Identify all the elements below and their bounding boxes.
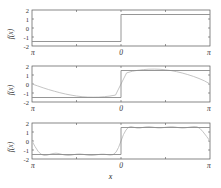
- y-tick-label: 1: [26, 16, 29, 23]
- y-tick-label: -2: [24, 43, 29, 50]
- y-tick-label: -2: [24, 156, 29, 163]
- chart-panel-1: f(x) 2 1 0 -1 -2: [0, 4, 221, 60]
- x-tick-label: π: [207, 48, 211, 57]
- fourier-series-figure: f(x) 2 1 0 -1 -2: [0, 0, 221, 188]
- x-tick-label: 0: [119, 48, 123, 57]
- square-wave-trace: [32, 128, 210, 155]
- square-wave-trace: [32, 15, 210, 42]
- x-tick-label: π: [31, 48, 35, 57]
- y-tick-label: -1: [24, 147, 29, 154]
- square-wave-trace: [32, 71, 210, 98]
- x-tick-label: π: [207, 104, 211, 113]
- panel-1-svg: f(x) 2 1 0 -1 -2: [0, 4, 221, 60]
- chart-panel-3: f(x) 2 1 0 -1 -2 π 0 π: [0, 117, 221, 173]
- x-tick-label: 0: [119, 161, 123, 170]
- y-axis-label-1: f(x): [6, 28, 15, 39]
- y-axis-label-2: f(x): [6, 84, 15, 95]
- panel-3-svg: f(x) 2 1 0 -1 -2 π 0 π: [0, 117, 221, 173]
- y-tick-label: 1: [26, 129, 29, 136]
- y-tick-label: 2: [26, 63, 29, 70]
- y-tick-label: -1: [24, 90, 29, 97]
- y-tick-label: -2: [24, 99, 29, 106]
- y-tick-label: 0: [26, 25, 29, 32]
- y-tick-label: 0: [26, 138, 29, 145]
- y-tick-label: -1: [24, 34, 29, 41]
- x-tick-label: π: [207, 161, 211, 170]
- x-tick-label: π: [31, 104, 35, 113]
- chart-panel-2: f(x) 2 1 0 -1 -2 π 0 π: [0, 60, 221, 116]
- x-axis-label: x: [0, 172, 221, 181]
- y-axis-label-3: f(x): [6, 141, 15, 152]
- y-tick-label: 1: [26, 72, 29, 79]
- panel-2-svg: f(x) 2 1 0 -1 -2 π 0 π: [0, 60, 221, 116]
- y-tick-label: 2: [26, 120, 29, 127]
- x-tick-label: 0: [119, 104, 123, 113]
- y-tick-label: 2: [26, 7, 29, 14]
- y-tick-label: 0: [26, 81, 29, 88]
- x-tick-label: π: [31, 161, 35, 170]
